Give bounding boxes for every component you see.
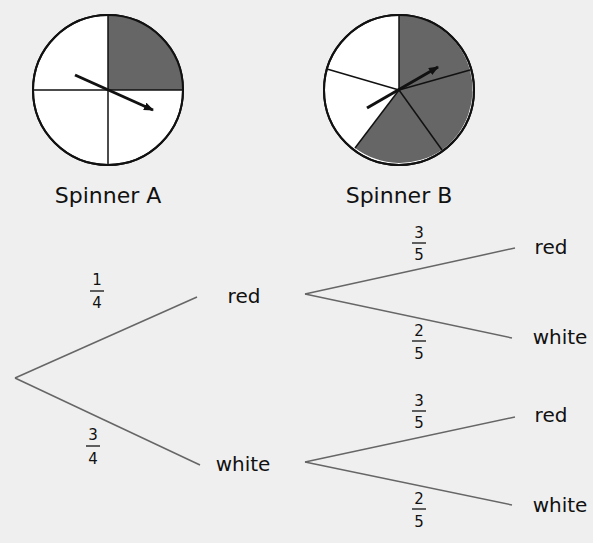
node-white: white bbox=[216, 452, 271, 476]
spinner-b: Spinner B bbox=[324, 15, 474, 208]
prob-white-white-denominator: 5 bbox=[414, 513, 424, 531]
prob-first-red-denominator: 4 bbox=[92, 294, 102, 312]
spinner-a-label: Spinner A bbox=[55, 183, 162, 208]
spinner-a-shaded-sector bbox=[108, 15, 183, 90]
prob-first-white-numerator: 3 bbox=[88, 426, 98, 444]
prob-red-white-numerator: 2 bbox=[414, 322, 424, 340]
tree-second-stage-from-white: 3 5 2 5 red white bbox=[305, 392, 587, 531]
spinner-b-label: Spinner B bbox=[346, 183, 453, 208]
node-white-red: red bbox=[535, 403, 568, 427]
branch-red-white bbox=[305, 294, 512, 338]
prob-white-white-numerator: 2 bbox=[414, 490, 424, 508]
node-red-white: white bbox=[533, 325, 588, 349]
branch-first-white bbox=[15, 378, 200, 465]
prob-red-red-denominator: 5 bbox=[414, 246, 424, 264]
prob-red-red-numerator: 3 bbox=[414, 224, 424, 242]
prob-red-white-denominator: 5 bbox=[414, 345, 424, 363]
spinner-a: Spinner A bbox=[33, 15, 183, 208]
node-white-white: white bbox=[533, 493, 588, 517]
prob-white-red-numerator: 3 bbox=[414, 392, 424, 410]
tree-second-stage-from-red: 3 5 2 5 red white bbox=[305, 224, 587, 363]
branch-first-red bbox=[15, 297, 197, 378]
node-red-red: red bbox=[535, 235, 568, 259]
branch-red-red bbox=[305, 248, 515, 294]
prob-first-red-numerator: 1 bbox=[92, 271, 102, 289]
probability-diagram: Spinner A Spinner B 1 4 3 4 red white 3 bbox=[0, 0, 593, 543]
node-red: red bbox=[228, 284, 261, 308]
prob-first-white-denominator: 4 bbox=[88, 450, 98, 468]
branch-white-white bbox=[305, 462, 512, 505]
branch-white-red bbox=[305, 417, 515, 462]
tree-first-stage: 1 4 3 4 red white bbox=[15, 271, 270, 476]
prob-white-red-denominator: 5 bbox=[414, 414, 424, 432]
